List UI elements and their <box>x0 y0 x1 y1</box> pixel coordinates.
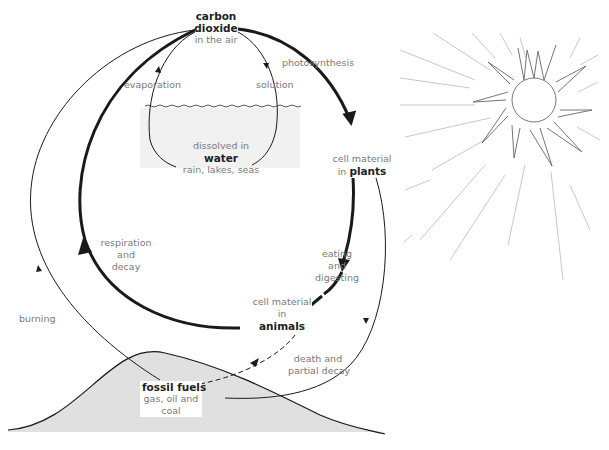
fossil-label: fossil fuels <box>142 381 200 393</box>
process-burning: burning <box>19 313 56 325</box>
process-evaporation: evaporation <box>124 79 181 91</box>
plants-in: in <box>338 166 347 177</box>
fossil-sub2: coal <box>142 405 200 417</box>
animals-in: in <box>252 308 312 320</box>
water-label: water <box>176 152 266 164</box>
death-line1: death and <box>288 353 348 365</box>
sun-icon <box>473 45 592 166</box>
respiration-line1: respiration <box>96 237 156 249</box>
process-photosynthesis: photosynthesis <box>282 57 354 69</box>
process-eating-digesting: eating and digesting <box>312 248 362 284</box>
respiration-line2: and <box>96 249 156 261</box>
process-solution: solution <box>256 79 294 91</box>
co2-sublabel: in the air <box>176 34 256 46</box>
respiration-arrow <box>80 30 240 328</box>
eating-line1: eating <box>312 248 362 260</box>
death-line2: partial decay <box>288 365 348 377</box>
node-water: dissolved in water rain, lakes, seas <box>176 140 266 176</box>
eating-line3: digesting <box>312 272 362 284</box>
node-animals: cell material in animals <box>252 296 312 332</box>
plants-label: plants <box>349 165 386 177</box>
node-carbon-dioxide: carbon dioxide in the air <box>176 10 256 46</box>
process-death-decay: death and partial decay <box>288 353 348 377</box>
co2-label-line1: carbon <box>176 10 256 22</box>
water-sublabel: rain, lakes, seas <box>176 164 266 176</box>
respiration-line3: decay <box>96 261 156 273</box>
node-plants: cell material in plants <box>332 153 392 178</box>
node-fossil-fuels: fossil fuels gas, oil and coal <box>140 381 202 417</box>
co2-label-line2: dioxide <box>176 22 256 34</box>
animals-prefix: cell material <box>252 296 312 308</box>
plants-prefix: cell material <box>332 153 392 165</box>
animals-label: animals <box>252 320 312 332</box>
eating-line2: and <box>312 260 362 272</box>
process-respiration-decay: respiration and decay <box>96 237 156 273</box>
fossil-sub1: gas, oil and <box>142 393 200 405</box>
water-prefix: dissolved in <box>176 140 266 152</box>
